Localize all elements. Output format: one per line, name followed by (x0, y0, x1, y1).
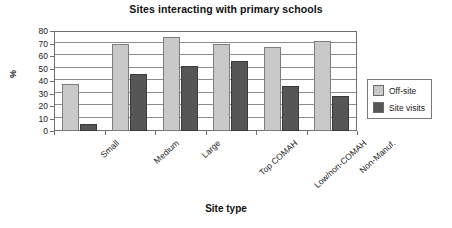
bar-off-site-non-manuf- (314, 41, 331, 131)
x-tick-mark (307, 131, 308, 135)
bar-site-visits-large (181, 66, 198, 131)
x-tick-mark (155, 131, 156, 135)
y-tick-label: 20 (18, 102, 48, 110)
y-tick-label: 10 (18, 115, 48, 123)
y-tick-label: 60 (18, 52, 48, 60)
x-tick-mark (105, 131, 106, 135)
x-tick-mark (357, 131, 358, 135)
legend-item: Off-site (373, 85, 425, 96)
y-tick-label: 70 (18, 40, 48, 48)
bar-chart: Sites interacting with primary schools %… (0, 0, 452, 228)
legend-swatch-off-site (373, 85, 384, 96)
legend-item: Site visits (373, 102, 425, 113)
chart-title: Sites interacting with primary schools (0, 3, 452, 15)
bar-off-site-top-comah (213, 44, 230, 132)
y-axis-label: % (8, 70, 18, 78)
bar-off-site-low-non-comah (264, 47, 281, 131)
x-axis-title: Site type (0, 203, 452, 214)
bar-site-visits-small (80, 124, 97, 132)
x-tick-label: Medium (152, 138, 181, 166)
legend-label: Off-site (389, 86, 416, 96)
y-tick-label: 0 (18, 127, 48, 135)
x-tick-label: Large (200, 138, 223, 160)
bar-site-visits-top-comah (231, 61, 248, 131)
bar-off-site-medium (112, 44, 129, 132)
bar-site-visits-non-manuf- (332, 96, 349, 131)
x-tick-mark (256, 131, 257, 135)
bar-off-site-large (163, 37, 180, 131)
x-tick-mark (54, 131, 55, 135)
legend-label: Site visits (389, 103, 425, 113)
bar-site-visits-low-non-comah (282, 86, 299, 131)
x-tick-mark (206, 131, 207, 135)
y-tick-label: 30 (18, 90, 48, 98)
bars-layer (54, 31, 357, 131)
y-tick-label: 80 (18, 27, 48, 35)
legend-swatch-site-visits (373, 102, 384, 113)
x-tick-label: Small (99, 138, 121, 160)
y-tick-label: 40 (18, 77, 48, 85)
x-tick-label: Top COMAH (257, 138, 299, 177)
bar-off-site-small (62, 84, 79, 132)
bar-site-visits-medium (130, 74, 147, 132)
chart-legend: Off-siteSite visits (367, 79, 432, 119)
y-tick-label: 50 (18, 65, 48, 73)
